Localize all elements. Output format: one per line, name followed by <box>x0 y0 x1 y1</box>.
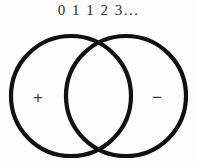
figure-canvas: 0 1 1 2 3... + − <box>0 0 197 166</box>
left-circle <box>11 36 131 156</box>
plus-sign-icon: + <box>33 88 43 107</box>
right-circle <box>66 36 186 156</box>
minus-sign-icon: − <box>152 88 162 107</box>
venn-diagram: + − <box>0 0 197 166</box>
